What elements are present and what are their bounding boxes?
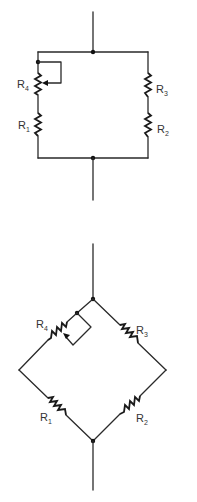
bridge-r1-resistor <box>48 397 66 415</box>
r3-label-sub: 3 <box>164 90 168 97</box>
rheostat-loop-wire <box>38 62 61 83</box>
upper-right-wire-b <box>138 343 166 370</box>
upper-left-wire-a <box>77 299 93 313</box>
r2-label-sub: 2 <box>165 130 169 137</box>
bridge-r2-label: R <box>136 412 144 424</box>
r3-resistor <box>145 73 151 97</box>
top-junction-node <box>91 50 95 54</box>
r2-resistor <box>145 113 151 137</box>
r2-label: R <box>157 123 165 135</box>
r1-resistor <box>35 113 41 136</box>
bridge-r4-resistor <box>48 322 67 340</box>
upper-right-wire-a <box>93 299 120 325</box>
r4-label: R <box>17 78 25 90</box>
bridge-r3-label-sub: 3 <box>144 331 148 338</box>
circuit-diagrams: R 4 R 1 R 3 R 2 <box>0 0 197 502</box>
parallel-circuit: R 4 R 1 R 3 R 2 <box>17 12 169 200</box>
lower-right-wire-b <box>93 414 120 441</box>
bridge-r4-label-sub: 4 <box>44 325 48 332</box>
wiper-arrow-icon <box>42 80 48 86</box>
upper-left-wire-c <box>19 340 48 370</box>
bridge-rheostat-loop-wire <box>66 313 91 345</box>
r1-label-sub: 1 <box>26 126 30 133</box>
bridge-r2-label-sub: 2 <box>144 419 148 426</box>
lower-left-wire-a <box>19 370 48 398</box>
r1-label: R <box>18 119 26 131</box>
upper-left-wire-b <box>67 313 77 322</box>
bridge-r3-label: R <box>136 324 144 336</box>
lower-left-wire-b <box>66 415 93 441</box>
bridge-r1-label-sub: 1 <box>48 418 52 425</box>
lower-right-wire-a <box>140 370 166 396</box>
bridge-r1-label: R <box>40 411 48 423</box>
bridge-r4-label: R <box>36 318 44 330</box>
r4-resistor <box>35 73 41 95</box>
r3-label: R <box>156 83 164 95</box>
bridge-wiper-arrow-icon <box>63 333 70 339</box>
bridge-circuit: R 4 R 1 R 3 R 2 <box>19 244 166 490</box>
r4-label-sub: 4 <box>25 85 29 92</box>
